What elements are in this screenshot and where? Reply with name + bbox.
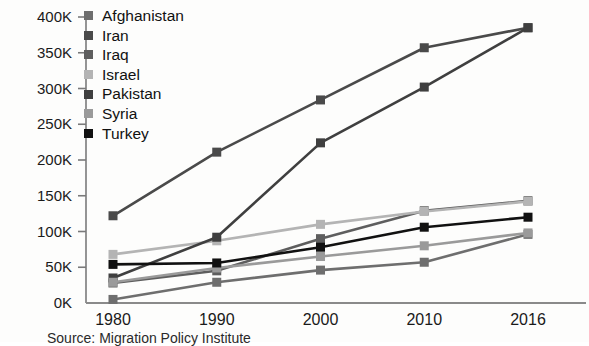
legend-swatch-icon: [84, 129, 93, 138]
data-point-marker[interactable]: [316, 138, 325, 147]
legend-item[interactable]: Iran: [84, 26, 254, 46]
data-point-marker[interactable]: [316, 266, 325, 275]
legend-swatch-icon: [84, 50, 93, 59]
data-point-marker[interactable]: [316, 252, 325, 261]
legend-item[interactable]: Israel: [84, 65, 254, 85]
y-axis: 0K50K100K150K200K250K300K350K400K: [37, 8, 86, 311]
x-tick-label: 1980: [95, 311, 131, 328]
x-tick-label: 2010: [406, 311, 442, 328]
data-point-marker[interactable]: [316, 234, 325, 243]
data-point-marker[interactable]: [316, 220, 325, 229]
data-point-marker[interactable]: [212, 258, 221, 267]
data-point-marker[interactable]: [420, 258, 429, 267]
data-point-marker[interactable]: [212, 148, 221, 157]
y-tick-label: 250K: [37, 115, 72, 132]
legend-swatch-icon: [84, 70, 93, 79]
y-tick-label: 0K: [54, 294, 72, 311]
chart-legend: Afghanistan Iran Iraq Israel Pakistan Sy…: [84, 6, 254, 143]
y-tick-label: 50K: [45, 258, 72, 275]
legend-item-label: Turkey: [102, 126, 149, 142]
legend-item[interactable]: Iraq: [84, 45, 254, 65]
data-point-marker[interactable]: [109, 295, 118, 304]
y-tick-label-group: 0K50K100K150K200K250K300K350K400K: [37, 8, 72, 311]
x-tick-label-group: 19801990200020102016: [95, 311, 546, 328]
legend-item[interactable]: Pakistan: [84, 84, 254, 104]
legend-item[interactable]: Syria: [84, 104, 254, 124]
data-point-marker[interactable]: [524, 197, 533, 206]
legend-swatch-icon: [84, 109, 93, 118]
data-point-marker[interactable]: [524, 228, 533, 237]
legend-swatch-icon: [84, 31, 93, 40]
data-point-marker[interactable]: [420, 43, 429, 52]
x-axis: 19801990200020102016: [86, 303, 586, 328]
legend-item-label: Pakistan: [102, 86, 161, 102]
legend-item-label: Israel: [102, 67, 140, 83]
y-tick-label: 300K: [37, 80, 72, 97]
data-point-marker[interactable]: [420, 207, 429, 216]
y-tick-label: 150K: [37, 187, 72, 204]
data-point-marker[interactable]: [109, 211, 118, 220]
legend-item-label: Iraq: [102, 47, 129, 63]
legend-item[interactable]: Afghanistan: [84, 6, 254, 26]
legend-swatch-icon: [84, 11, 93, 20]
y-tick-label: 100K: [37, 223, 72, 240]
source-caption: Source: Migration Policy Institute: [47, 330, 251, 346]
y-tick-label: 350K: [37, 44, 72, 61]
data-point-marker[interactable]: [212, 278, 221, 287]
legend-item-label: Afghanistan: [102, 8, 184, 24]
data-point-marker[interactable]: [109, 250, 118, 259]
x-tick-label: 1990: [199, 311, 235, 328]
x-tick-label: 2000: [303, 311, 339, 328]
data-point-marker[interactable]: [109, 260, 118, 269]
data-point-marker[interactable]: [420, 241, 429, 250]
data-point-marker[interactable]: [420, 223, 429, 232]
legend-item[interactable]: Turkey: [84, 124, 254, 144]
data-point-marker[interactable]: [524, 23, 533, 32]
data-point-marker[interactable]: [109, 278, 118, 287]
data-point-marker[interactable]: [316, 95, 325, 104]
data-point-marker[interactable]: [524, 213, 533, 222]
y-tick-label: 200K: [37, 151, 72, 168]
data-point-marker[interactable]: [316, 243, 325, 252]
data-point-marker[interactable]: [420, 83, 429, 92]
x-tick-label: 2016: [510, 311, 546, 328]
y-tick-label: 400K: [37, 8, 72, 25]
legend-swatch-icon: [84, 90, 93, 99]
legend-item-label: Iran: [102, 28, 129, 44]
data-point-marker[interactable]: [212, 233, 221, 242]
legend-item-label: Syria: [102, 106, 137, 122]
